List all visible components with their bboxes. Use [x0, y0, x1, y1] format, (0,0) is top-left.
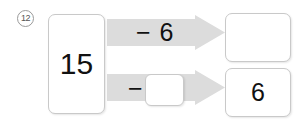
operator-label-top: − 6: [136, 18, 174, 46]
worksheet-problem: 12 15 − 6 − 6: [0, 0, 303, 127]
start-value-text: 15: [60, 47, 93, 81]
start-value-box: 15: [48, 14, 105, 114]
result-box-bottom-value: 6: [251, 78, 265, 107]
operator-label-bottom: −: [128, 74, 143, 102]
problem-number-badge: 12: [17, 10, 34, 27]
result-box-bottom[interactable]: 6: [225, 68, 291, 117]
operand-blank-box-bottom[interactable]: [145, 74, 184, 106]
result-box-top[interactable]: [225, 13, 291, 62]
